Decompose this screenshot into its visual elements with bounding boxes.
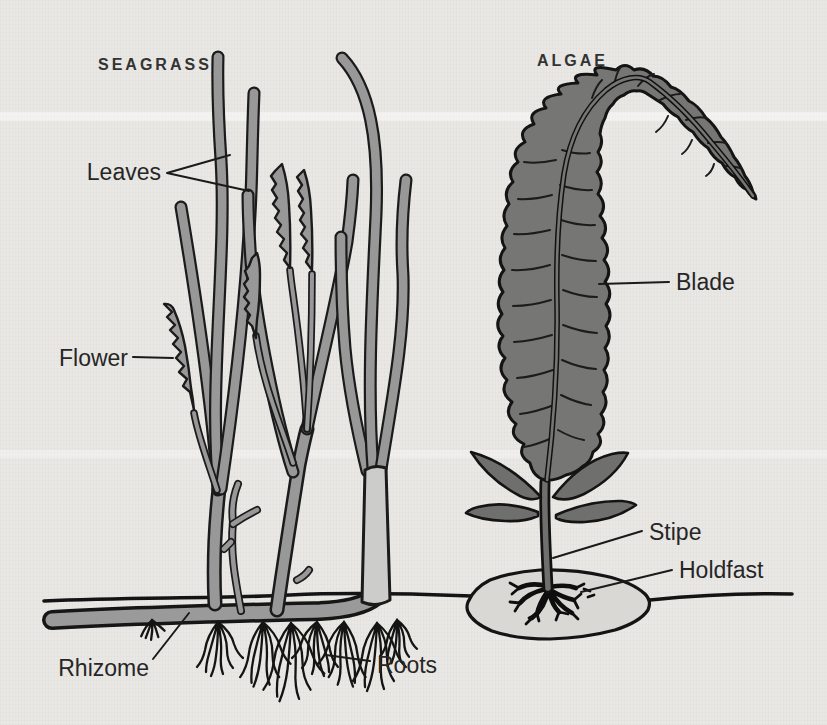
roots-group (141, 620, 417, 701)
side-blade (556, 501, 636, 522)
ground-line-right (650, 594, 792, 600)
algae-figure: ALGAE Blade Stipe Holdfast (466, 52, 792, 639)
label-rhizome: Rhizome (58, 655, 149, 681)
label-blade: Blade (676, 269, 735, 295)
leaf-sheath (362, 466, 390, 604)
seagrass-shoot-right (341, 58, 406, 605)
page-canvas: SEAGRASS Leaves Flower Rhizome Roots (0, 0, 827, 725)
stipe-leader-line (553, 531, 642, 558)
seagrass-figure: SEAGRASS Leaves Flower Rhizome Roots (44, 56, 472, 701)
seagrass-title: SEAGRASS (98, 56, 212, 73)
flower-spike (271, 164, 290, 268)
ground-line-left (44, 593, 472, 601)
label-stipe: Stipe (649, 519, 701, 545)
flower-spike (297, 170, 312, 270)
label-holdfast: Holdfast (679, 557, 764, 583)
side-blade (466, 504, 538, 521)
label-roots: Roots (377, 652, 437, 678)
label-flower: Flower (59, 345, 128, 371)
paper-texture-band (0, 450, 827, 458)
seagrass-young-shoot (224, 484, 257, 611)
flower-leader-line (133, 357, 173, 358)
blade-leader-line (599, 282, 669, 284)
leaves-leader-line (167, 155, 249, 191)
diagram-svg: SEAGRASS Leaves Flower Rhizome Roots (0, 0, 827, 725)
label-leaves: Leaves (87, 159, 161, 185)
algae-title: ALGAE (537, 52, 608, 69)
seagrass-shoot-middle (244, 164, 353, 610)
